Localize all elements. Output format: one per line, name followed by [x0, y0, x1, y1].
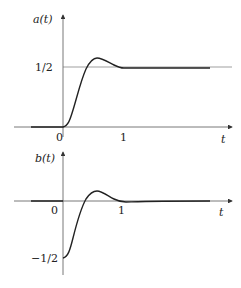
xlabel-a: t — [221, 133, 226, 146]
ylabel-b: b(t) — [35, 152, 55, 165]
level-label-b: −1/2 — [31, 252, 58, 265]
xlabel-b: t — [219, 206, 224, 219]
level-label-a: 1/2 — [35, 61, 53, 74]
origin-label-b: 0 — [51, 204, 58, 217]
plot-a: a(t) 1/2 0 1 t — [14, 13, 232, 146]
curve-a — [31, 58, 210, 127]
origin-label-a: 0 — [56, 131, 63, 144]
ylabel-a: a(t) — [33, 13, 53, 26]
curve-b — [31, 191, 210, 258]
tick1-label-a: 1 — [120, 131, 127, 144]
plot-b: b(t) −1/2 0 1 t — [14, 152, 232, 275]
tick1-label-b: 1 — [118, 204, 125, 217]
diagram-canvas: a(t) 1/2 0 1 t b(t) −1/2 0 1 t — [0, 0, 241, 288]
